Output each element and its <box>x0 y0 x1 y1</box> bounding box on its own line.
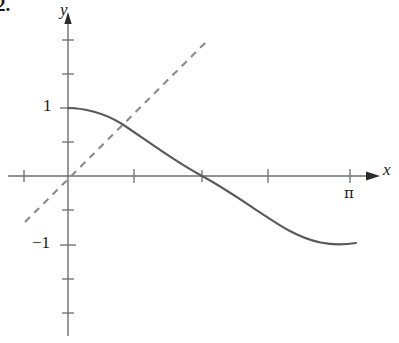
y-axis-label: y <box>60 0 68 20</box>
y-tick-label-one: 1 <box>43 96 52 116</box>
coordinate-plane-svg <box>0 0 399 343</box>
x-axis-arrow-icon <box>366 172 380 181</box>
problem-number: 2. <box>0 0 10 16</box>
graph-figure: 2. <box>0 0 399 343</box>
x-axis-label: x <box>383 160 391 180</box>
dashed-tangent-line <box>25 42 206 222</box>
x-tick-label-pi: π <box>344 184 354 202</box>
y-tick-label-negative-one: −1 <box>32 233 50 253</box>
